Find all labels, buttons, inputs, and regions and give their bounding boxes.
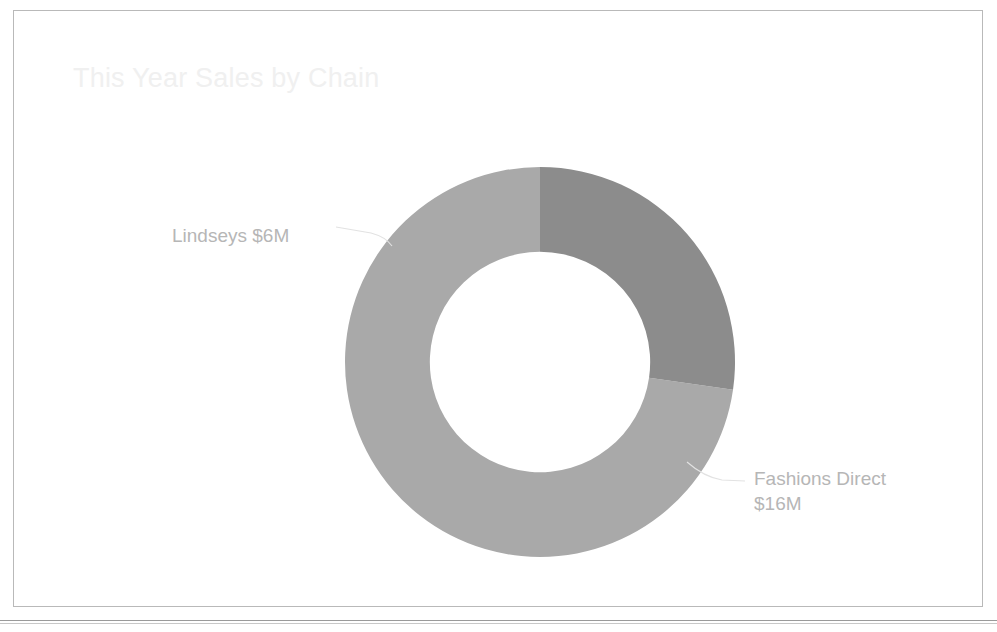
donut-chart[interactable] [14, 11, 984, 608]
leader-line-lindseys [336, 227, 392, 246]
data-label-fashions-direct-value: $16M [754, 491, 886, 516]
data-label-fashions-direct: Fashions Direct $16M [754, 466, 886, 516]
page-divider-rule-secondary [0, 623, 997, 624]
data-label-lindseys-text: Lindseys $6M [172, 225, 289, 246]
data-label-lindseys: Lindseys $6M [172, 223, 289, 248]
report-canvas: This Year Sales by Chain Lindseys $6M Fa… [0, 0, 997, 632]
chart-card[interactable]: This Year Sales by Chain Lindseys $6M Fa… [13, 10, 983, 607]
data-label-fashions-direct-name: Fashions Direct [754, 466, 886, 491]
page-divider-rule [0, 620, 997, 621]
pie-slice-lindseys[interactable] [540, 167, 735, 390]
